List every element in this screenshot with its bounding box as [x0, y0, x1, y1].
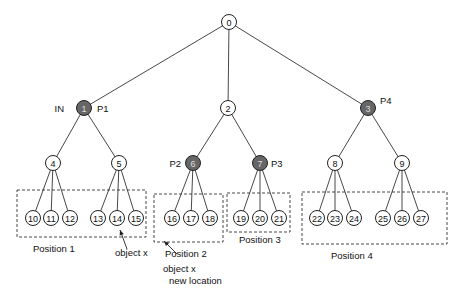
edge-5-15	[119, 163, 136, 218]
node-label: 14	[112, 214, 122, 224]
position-label-4: Position 4	[331, 250, 373, 261]
node-13: 13	[91, 211, 106, 226]
node-label: 5	[116, 159, 121, 169]
node-label: 20	[255, 214, 265, 224]
node-label: 26	[397, 214, 407, 224]
object-x-new-location-line1: object x	[163, 263, 196, 274]
node-tag-p3: P3	[271, 158, 283, 169]
node-6: 6	[186, 156, 201, 171]
node-9: 9	[395, 156, 410, 171]
node-2: 2	[221, 101, 236, 116]
node-label: 23	[330, 214, 340, 224]
node-1: 1	[77, 101, 92, 116]
node-24: 24	[347, 211, 362, 226]
edge-4-11	[51, 163, 53, 218]
node-tag-p2: P2	[169, 158, 181, 169]
arrowhead-icon	[120, 230, 124, 235]
node-19: 19	[234, 211, 249, 226]
node-3: 3	[361, 101, 376, 116]
node-15: 15	[129, 211, 144, 226]
node-label: 27	[416, 214, 426, 224]
node-11: 11	[44, 211, 59, 226]
node-label: 9	[399, 159, 404, 169]
edge-8-24	[335, 163, 354, 218]
node-25: 25	[376, 211, 391, 226]
tree-edges	[33, 22, 421, 218]
edge-0-1	[84, 22, 229, 108]
node-label: 12	[65, 214, 75, 224]
node-label: 18	[205, 214, 215, 224]
edge-4-12	[53, 163, 70, 218]
node-label: 1	[81, 104, 86, 114]
edge-3-9	[368, 108, 402, 163]
node-23: 23	[328, 211, 343, 226]
node-16: 16	[165, 211, 180, 226]
node-label: 2	[225, 104, 230, 114]
node-10: 10	[26, 211, 41, 226]
node-22: 22	[310, 211, 325, 226]
node-21: 21	[272, 211, 287, 226]
node-label: 0	[226, 18, 231, 28]
node-5: 5	[112, 156, 127, 171]
edge-3-8	[335, 108, 368, 163]
node-label: 17	[186, 214, 196, 224]
node-label: 21	[274, 214, 284, 224]
node-7: 7	[253, 156, 268, 171]
object-x-new-location-line2: new location	[169, 275, 222, 286]
edge-1-5	[84, 108, 119, 163]
tree-nodes: 0123456789101112131415161718192021222324…	[26, 15, 429, 226]
edge-0-3	[229, 22, 368, 108]
position-label-3: Position 3	[239, 234, 281, 245]
edge-9-25	[383, 163, 402, 218]
node-18: 18	[203, 211, 218, 226]
edge-8-22	[317, 163, 335, 218]
node-tag-p1: P1	[97, 103, 109, 114]
edge-7-19	[241, 163, 260, 218]
node-label: 8	[332, 159, 337, 169]
node-label: 22	[312, 214, 322, 224]
node-label: 15	[131, 214, 141, 224]
edge-6-17	[191, 163, 193, 218]
node-label: 7	[257, 159, 262, 169]
node-label: 19	[236, 214, 246, 224]
node-tag-p4: P4	[380, 95, 392, 106]
edge-6-16	[172, 163, 193, 218]
position-label-2: Position 2	[165, 248, 207, 259]
node-label: 24	[349, 214, 359, 224]
edge-4-10	[33, 163, 53, 218]
edge-0-2	[228, 22, 229, 108]
node-4: 4	[46, 156, 61, 171]
node-label: 3	[365, 104, 370, 114]
position-label-1: Position 1	[33, 243, 75, 254]
edge-5-14	[117, 163, 119, 218]
node-12: 12	[63, 211, 78, 226]
node-label: 4	[50, 159, 55, 169]
edge-1-4	[53, 108, 84, 163]
edge-2-7	[228, 108, 260, 163]
node-14: 14	[110, 211, 125, 226]
node-label: 13	[93, 214, 103, 224]
edge-7-21	[260, 163, 279, 218]
edge-2-6	[193, 108, 228, 163]
object-x-label: object x	[115, 247, 148, 258]
node-20: 20	[253, 211, 268, 226]
edge-6-18	[193, 163, 210, 218]
node-label: 11	[46, 214, 55, 224]
node-27: 27	[414, 211, 429, 226]
node-0: 0	[222, 15, 237, 30]
node-label: 10	[28, 214, 38, 224]
node-tag-in: IN	[55, 103, 65, 114]
node-26: 26	[395, 211, 410, 226]
edge-5-13	[98, 163, 119, 218]
node-label: 25	[378, 214, 388, 224]
node-label: 6	[190, 159, 195, 169]
node-8: 8	[328, 156, 343, 171]
node-label: 16	[167, 214, 177, 224]
edge-9-27	[402, 163, 421, 218]
node-17: 17	[184, 211, 199, 226]
tree-diagram: Position 1Position 2Position 3Position 4…	[0, 0, 460, 300]
